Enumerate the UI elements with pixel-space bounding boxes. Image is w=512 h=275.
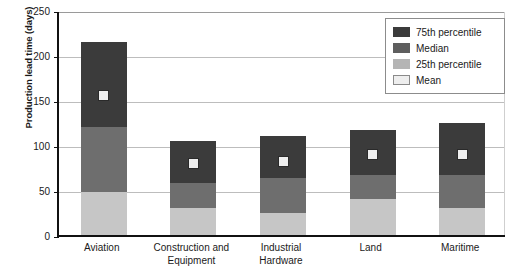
legend-item[interactable]: 75th percentile	[393, 24, 498, 40]
legend-label: Median	[416, 43, 449, 54]
y-tick-label-200: 200	[10, 52, 50, 62]
mean-marker	[457, 149, 468, 160]
y-tick-label-100: 100	[10, 142, 50, 152]
bar-segment-median	[170, 183, 216, 208]
bar-group[interactable]	[81, 42, 127, 236]
bar-segment-median	[350, 175, 396, 199]
bar-group[interactable]	[260, 136, 306, 235]
x-tick-label-line: Equipment	[147, 255, 237, 268]
y-tick-mark-200	[54, 57, 59, 58]
x-tick-label: Construction andEquipment	[147, 242, 237, 267]
bar-group[interactable]	[350, 130, 396, 235]
x-tick-label-line: Land	[326, 242, 416, 255]
y-tick-mark-50	[54, 192, 59, 193]
x-tick-label-line: Construction and	[147, 242, 237, 255]
bar-segment-p25	[81, 192, 127, 235]
mean-marker	[188, 158, 199, 169]
bar-group[interactable]	[170, 141, 216, 236]
y-tick-label-0: 0	[10, 232, 50, 242]
x-tick-label-line: Maritime	[415, 242, 505, 255]
bar-segment-median	[81, 127, 127, 192]
legend-label: 25th percentile	[416, 59, 482, 70]
y-tick-mark-100	[54, 147, 59, 148]
bar-segment-p25	[350, 199, 396, 235]
legend-label: 75th percentile	[416, 27, 482, 38]
legend-swatch-p75	[393, 27, 410, 37]
x-tick-label-line: Industrial	[236, 242, 326, 255]
x-tick-label-line: Hardware	[236, 255, 326, 268]
mean-marker	[278, 156, 289, 167]
x-tick-label: Land	[326, 242, 416, 255]
mean-marker	[367, 149, 378, 160]
bar-segment-median	[439, 175, 485, 208]
legend-swatch-p25	[393, 59, 410, 69]
legend-item[interactable]: 25th percentile	[393, 56, 498, 72]
legend-label: Mean	[416, 75, 441, 86]
y-tick-mark-150	[54, 102, 59, 103]
bar-segment-p25	[439, 208, 485, 235]
x-tick-label-line: Aviation	[57, 242, 147, 255]
production-lead-time-chart: Production lead time (days) 250200150100…	[0, 0, 512, 275]
legend-item[interactable]: Mean	[393, 72, 498, 88]
y-axis-title: Production lead time (days)	[23, 0, 34, 148]
gridline-250	[59, 12, 505, 13]
y-tick-label-50: 50	[10, 187, 50, 197]
legend-swatch-mean	[393, 75, 410, 85]
x-tick-label: Aviation	[57, 242, 147, 255]
bar-group[interactable]	[439, 123, 485, 235]
bar-segment-p25	[170, 208, 216, 235]
y-tick-mark-250	[54, 12, 59, 13]
chart-legend: 75th percentileMedian25th percentileMean	[385, 18, 505, 94]
mean-marker	[98, 90, 109, 101]
bar-segment-median	[260, 178, 306, 213]
bar-segment-p75	[81, 42, 127, 128]
x-tick-label: Maritime	[415, 242, 505, 255]
legend-swatch-median	[393, 43, 410, 53]
x-tick-label: IndustrialHardware	[236, 242, 326, 267]
bar-segment-p25	[260, 213, 306, 235]
legend-item[interactable]: Median	[393, 40, 498, 56]
y-tick-label-250: 250	[10, 7, 50, 17]
y-tick-mark-0	[54, 237, 59, 238]
y-tick-label-150: 150	[10, 97, 50, 107]
